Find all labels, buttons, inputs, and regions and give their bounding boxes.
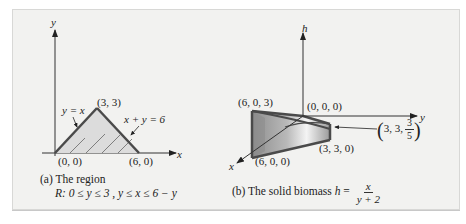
callout-numerator: 3 bbox=[405, 117, 414, 130]
caption-b-text: (b) The solid biomass bbox=[232, 185, 335, 197]
caption-a-region-var: R bbox=[55, 187, 62, 199]
point-right-label: (6, 0) bbox=[129, 155, 153, 167]
line-label-y-equals-x: y = x bbox=[62, 104, 85, 116]
caption-a-line2: R: 0 ≤ y ≤ 3 , y ≤ x ≤ 6 − y bbox=[55, 186, 177, 200]
caption-a-region-def: : 0 ≤ y ≤ 3 , y ≤ x ≤ 6 − y bbox=[62, 187, 177, 199]
caption-a-line1: (a) The region bbox=[40, 172, 106, 186]
point-origin-label: (0, 0) bbox=[58, 155, 82, 167]
caption-b-denominator: y + 2 bbox=[355, 193, 382, 205]
line-label-x-plus-y: x + y = 6 bbox=[124, 113, 165, 125]
axis-h-label: h bbox=[302, 22, 308, 34]
point-330-label: (3, 3, 0) bbox=[319, 142, 354, 154]
axis-x-label: x bbox=[177, 148, 182, 160]
point-603-label: (6, 0, 3) bbox=[238, 96, 273, 108]
callout-denominator: 5 bbox=[405, 130, 414, 142]
point-600-label: (6, 0, 0) bbox=[255, 155, 290, 167]
caption-b-eq: = bbox=[340, 185, 352, 197]
axis-x3-label: x bbox=[229, 160, 234, 172]
point-apex-label: (3, 3) bbox=[97, 96, 121, 108]
caption-b: (b) The solid biomass h = xy + 2 bbox=[232, 180, 382, 205]
caption-b-numerator: x bbox=[364, 180, 373, 193]
point-callout-label: (3, 3,35) bbox=[377, 117, 421, 142]
axis-y-label: y bbox=[51, 16, 56, 28]
point-000-label: (0, 0, 0) bbox=[307, 100, 342, 112]
callout-prefix: 3, 3, bbox=[384, 122, 403, 134]
